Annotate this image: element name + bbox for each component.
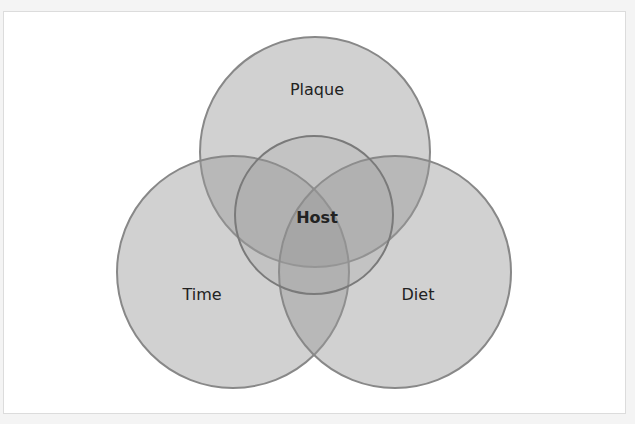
venn-diagram: Plaque Time Diet Host xyxy=(0,0,635,424)
label-time: Time xyxy=(181,285,221,304)
label-host: Host xyxy=(296,208,338,227)
label-plaque: Plaque xyxy=(290,80,344,99)
label-diet: Diet xyxy=(402,285,435,304)
